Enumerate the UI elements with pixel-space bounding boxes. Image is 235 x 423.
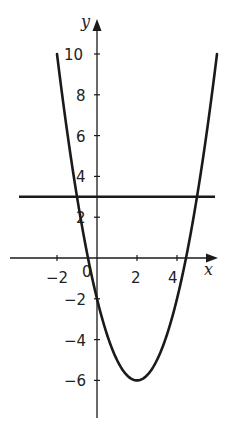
chart-canvas: x y −2 0 2 4 10 8 6 4 2 −2 −4 −6 [0,0,235,423]
y-tick-label: −6 [64,372,86,390]
y-axis-arrow-icon [93,19,102,31]
x-tick-label: −2 [46,269,68,287]
y-tick-label: 6 [76,128,86,146]
y-tick-label: −4 [64,332,86,350]
y-tick-label: 8 [76,87,86,105]
y-axis-label: y [80,12,91,31]
y-tick-label: 4 [76,168,86,186]
x-axis-label: x [204,260,213,279]
y-tick-label: 10 [64,46,83,64]
x-tick-label: 2 [131,269,141,287]
x-tick-label: 4 [168,269,178,287]
y-tick-label: −2 [64,291,86,309]
